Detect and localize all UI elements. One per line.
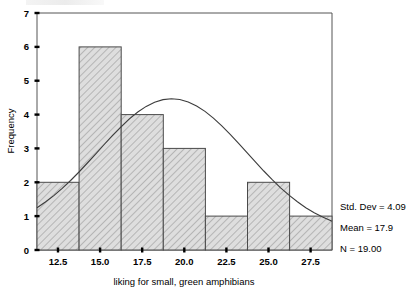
stat-n: N = 19.00: [340, 243, 381, 254]
bar-22-5: [205, 216, 247, 250]
bars-group: [37, 47, 332, 250]
y-tick-label-0: 0: [24, 245, 29, 256]
stat-mean: Mean = 17.9: [340, 222, 393, 233]
stat-std-dev: Std. Dev = 4.09: [340, 201, 406, 212]
x-tick-labels: 12.5 15.0 17.5 20.0 22.5 25.0 27.5: [49, 256, 321, 267]
histogram-chart: 0 1 2 3 4 5 6 7 12.5 15.0 17.5 20.0 22.5: [0, 0, 413, 292]
y-tick-label-5: 5: [24, 75, 30, 86]
x-axis-title: liking for small, green amphibians: [114, 276, 255, 287]
x-tick-label-25-0: 25.0: [259, 256, 278, 267]
x-tick-label-27-5: 27.5: [301, 256, 320, 267]
bar-25-0: [248, 182, 290, 250]
bar-20-0: [163, 148, 205, 250]
y-tick-labels: 0 1 2 3 4 5 6 7: [24, 8, 30, 256]
x-tick-label-12-5: 12.5: [49, 256, 68, 267]
y-tick-label-3: 3: [24, 143, 29, 154]
y-tick-label-4: 4: [24, 109, 30, 120]
x-tick-label-15-0: 15.0: [91, 256, 110, 267]
bar-27-5: [290, 216, 332, 250]
y-tick-label-1: 1: [24, 211, 30, 222]
y-tick-label-2: 2: [24, 177, 29, 188]
x-tick-label-20-0: 20.0: [175, 256, 194, 267]
bar-17-5: [121, 115, 163, 250]
histogram-svg: 0 1 2 3 4 5 6 7 12.5 15.0 17.5 20.0 22.5: [0, 0, 413, 292]
x-tick-label-17-5: 17.5: [133, 256, 152, 267]
y-axis-title: Frequency: [5, 108, 16, 153]
y-tick-label-7: 7: [24, 8, 29, 19]
x-tick-label-22-5: 22.5: [217, 256, 236, 267]
y-tick-label-6: 6: [24, 41, 29, 52]
stats-annotations: Std. Dev = 4.09 Mean = 17.9 N = 19.00: [340, 201, 406, 254]
